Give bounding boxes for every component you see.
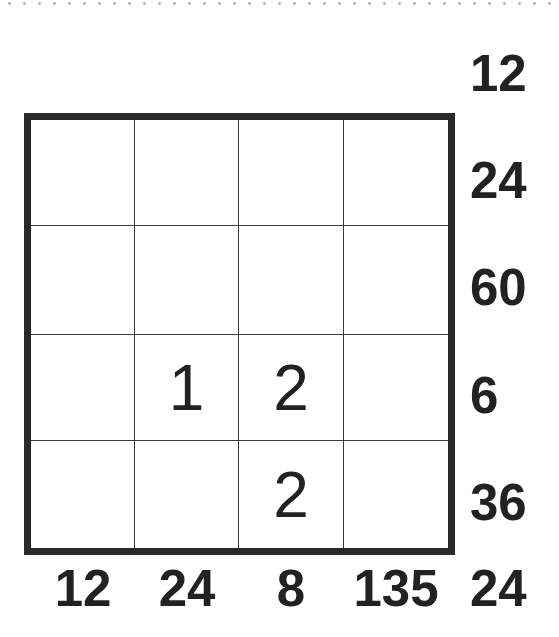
cell-r2-c2[interactable] bbox=[135, 226, 239, 335]
cell-r1-c2[interactable] bbox=[135, 120, 239, 226]
top-right-clue: 12 bbox=[470, 48, 527, 99]
column-clue-1: 12 bbox=[31, 563, 135, 614]
column-clue-2: 24 bbox=[135, 563, 239, 614]
row-clue-1: 24 bbox=[470, 155, 527, 206]
cell-r4-c4[interactable] bbox=[344, 441, 448, 548]
cell-r3-c4[interactable] bbox=[344, 335, 448, 441]
cell-r3-c2[interactable]: 1 bbox=[135, 335, 239, 441]
row-clue-4: 36 bbox=[470, 477, 527, 528]
cell-r1-c4[interactable] bbox=[344, 120, 448, 226]
column-clue-3: 8 bbox=[239, 563, 343, 614]
cell-r2-c1[interactable] bbox=[31, 226, 135, 335]
cell-r1-c1[interactable] bbox=[31, 120, 135, 226]
cell-r3-c1[interactable] bbox=[31, 335, 135, 441]
cell-r3-c3[interactable]: 2 bbox=[239, 335, 344, 441]
puzzle-grid: 1 2 2 bbox=[31, 120, 448, 548]
row-clue-3: 6 bbox=[470, 370, 498, 421]
cell-r4-c2[interactable] bbox=[135, 441, 239, 548]
dotted-separator bbox=[0, 2, 559, 5]
cell-r4-c3[interactable]: 2 bbox=[239, 441, 344, 548]
cell-r2-c3[interactable] bbox=[239, 226, 344, 335]
row-clue-2: 60 bbox=[470, 262, 527, 313]
corner-clue: 24 bbox=[470, 563, 527, 614]
cell-r4-c1[interactable] bbox=[31, 441, 135, 548]
cell-r1-c3[interactable] bbox=[239, 120, 344, 226]
column-clue-4: 135 bbox=[344, 563, 448, 614]
puzzle-board: 1 2 2 bbox=[24, 113, 455, 555]
cell-r2-c4[interactable] bbox=[344, 226, 448, 335]
